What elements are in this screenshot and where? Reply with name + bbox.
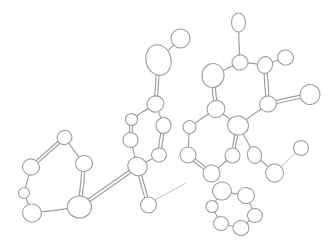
bond-a20-a21-a xyxy=(276,98,302,104)
bond-a28-a24-b xyxy=(232,134,235,148)
atom-node-a15 xyxy=(141,197,157,213)
atom-node-a29 xyxy=(246,145,264,165)
bond-a20-a24 xyxy=(245,108,261,120)
atom-node-a21 xyxy=(297,81,324,108)
bond-a18-a20-b xyxy=(267,72,269,96)
bond-a25-a26 xyxy=(188,133,189,148)
bond-a18-a20-a xyxy=(264,72,266,96)
atom-node-a14 xyxy=(171,29,190,48)
atom-node-a7 xyxy=(124,154,150,180)
bond-a16-a18 xyxy=(247,63,258,64)
bond-a11-a12-a xyxy=(159,132,161,148)
bond-a33-a34 xyxy=(249,202,252,209)
bond-a27-a28 xyxy=(217,160,227,168)
bond-a1-a2-a xyxy=(36,141,59,161)
bond-a9-a10 xyxy=(136,108,149,116)
bond-a12-a7 xyxy=(145,158,153,162)
atom-node-a17 xyxy=(232,13,246,32)
bond-a20-a21-b xyxy=(275,95,301,101)
atom-node-a13 xyxy=(142,42,174,78)
bond-a7-a15-b xyxy=(141,174,148,197)
atom-node-a22 xyxy=(200,62,226,89)
bond-a16-a22 xyxy=(223,66,234,71)
atom-node-a31 xyxy=(294,141,309,156)
bond-a5-a7-a xyxy=(89,173,131,202)
atom-node-a10 xyxy=(145,94,166,115)
atom-node-a16 xyxy=(231,54,249,72)
atom-node-a1 xyxy=(55,128,74,146)
atom-node-a34 xyxy=(248,209,263,223)
bond-a6-a1 xyxy=(69,143,80,158)
atom-node-a12 xyxy=(152,148,167,162)
bond-a36-a37 xyxy=(215,211,218,217)
atom-node-a18 xyxy=(255,54,275,75)
bond-a23-a25 xyxy=(194,114,209,124)
atom-node-a24 xyxy=(226,114,250,136)
bond-a22-a23-b xyxy=(215,86,216,101)
atom-node-a5 xyxy=(68,196,92,218)
bond-a10-a13-b xyxy=(155,73,157,97)
bond-a1-a2-b xyxy=(38,143,61,163)
bond-a7-a15-a xyxy=(138,175,145,198)
atom-node-a11 xyxy=(155,116,173,134)
bond-a5-a6-b xyxy=(79,171,82,196)
bond-a5-a7-b xyxy=(87,170,129,199)
bond-a16-a17 xyxy=(239,30,240,55)
atom-node-a37 xyxy=(206,201,218,213)
bond-a13-a14 xyxy=(168,45,175,51)
atom-node-a20 xyxy=(258,95,278,114)
atom-node-a2 xyxy=(20,156,42,178)
atom-node-a23 xyxy=(205,98,228,120)
atom-layer xyxy=(19,13,324,237)
atom-node-a6 xyxy=(74,154,95,174)
atom-node-a8 xyxy=(123,133,138,148)
atom-node-a36 xyxy=(214,217,229,231)
atom-node-a3 xyxy=(19,188,30,199)
atom-node-a4 xyxy=(20,202,43,224)
bond-a24-a29 xyxy=(242,134,251,149)
atom-node-a19 xyxy=(276,48,295,67)
bond-a5-a6-a xyxy=(82,171,85,196)
bond-a2-a3 xyxy=(25,174,29,188)
stub-line-layer xyxy=(155,183,186,200)
molecule-diagram-canvas xyxy=(0,0,336,241)
atom-node-a9 xyxy=(126,114,138,126)
bond-a11-a12-b xyxy=(161,133,163,149)
bond-a22-a23-a xyxy=(212,86,213,101)
atom-node-a32 xyxy=(210,180,233,202)
bond-a10-a13-a xyxy=(158,73,160,97)
bond-a29-a30 xyxy=(260,160,269,168)
atom-node-a33 xyxy=(236,186,256,205)
bond-a30-a31 xyxy=(281,153,296,168)
atom-node-a25 xyxy=(183,121,196,134)
stub-bond-s1 xyxy=(155,183,186,200)
bond-a4-a5 xyxy=(40,208,69,212)
bond-a28-a24-a xyxy=(235,135,238,149)
atom-node-a26 xyxy=(180,147,196,163)
bond-a7-a8 xyxy=(132,147,135,158)
atom-node-a28 xyxy=(225,148,240,163)
